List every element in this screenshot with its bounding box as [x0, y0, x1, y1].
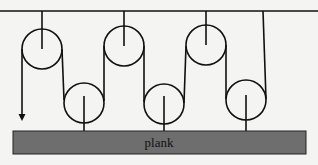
- top-pulley-2: [104, 11, 144, 66]
- bottom-pulley-3: [226, 80, 266, 131]
- rope: [22, 11, 266, 117]
- top-pulley-3: [186, 11, 226, 65]
- pulley-diagram: plank: [0, 0, 318, 165]
- bottom-pulley-1: [64, 83, 104, 131]
- top-pulley-1: [22, 11, 62, 69]
- bottom-pulley-2: [144, 84, 184, 131]
- plank-label: plank: [145, 135, 174, 150]
- arrow-down-icon: [19, 114, 26, 121]
